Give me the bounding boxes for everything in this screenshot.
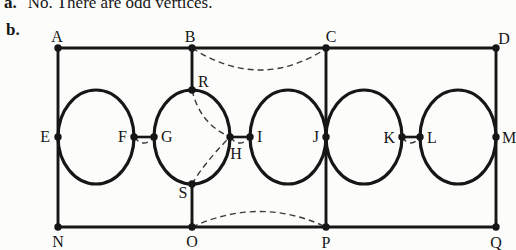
vertex-label-M: M <box>502 129 516 146</box>
vertex-dot-N <box>54 223 61 230</box>
vertex-label-Q: Q <box>490 234 502 250</box>
vertex-dot-M <box>492 133 499 140</box>
vertex-label-N: N <box>52 233 64 250</box>
vertex-label-F: F <box>118 128 127 145</box>
vertex-dot-P <box>322 223 329 230</box>
vertex-label-P: P <box>322 234 331 250</box>
graph-dashed-edges <box>134 48 420 227</box>
vertex-dot-G <box>150 133 157 140</box>
vertex-label-I: I <box>257 128 262 145</box>
vertex-label-G: G <box>161 128 173 145</box>
vertex-label-B: B <box>185 28 196 45</box>
vertex-dot-I <box>246 133 253 140</box>
graph-vertex-labels: A B C D E F G H I J K L M N O P Q R S <box>40 28 516 250</box>
vertex-label-E: E <box>40 128 50 145</box>
vertex-label-L: L <box>427 129 437 146</box>
vertex-label-D: D <box>498 30 510 47</box>
vertex-dot-J <box>322 133 329 140</box>
vertex-dot-Q <box>492 223 499 230</box>
euler-graph-diagram: A B C D E F G H I J K L M N O P Q R S <box>0 0 516 250</box>
vertex-dot-A <box>54 44 61 51</box>
vertex-dot-O <box>188 223 195 230</box>
vertex-dot-H <box>226 133 233 140</box>
vertex-dot-F <box>130 133 137 140</box>
vertex-dot-C <box>322 44 329 51</box>
vertex-dot-S <box>188 180 195 187</box>
vertex-label-J: J <box>313 128 319 145</box>
vertex-dot-L <box>416 133 423 140</box>
vertex-label-O: O <box>186 233 198 250</box>
vertex-label-H: H <box>230 145 242 162</box>
vertex-label-C: C <box>326 28 337 45</box>
vertex-dot-B <box>188 44 195 51</box>
dashed-edge-BC <box>192 48 327 70</box>
vertex-label-A: A <box>51 28 63 45</box>
vertex-label-K: K <box>383 129 395 146</box>
vertex-dot-E <box>54 133 61 140</box>
vertex-dot-K <box>398 133 405 140</box>
dashed-edge-OP <box>192 212 326 228</box>
vertex-dot-R <box>188 86 195 93</box>
vertex-label-R: R <box>198 73 209 90</box>
vertex-label-S: S <box>179 184 188 201</box>
textbook-answer-panel: a.No. There are odd vertices. b. <box>0 0 516 250</box>
